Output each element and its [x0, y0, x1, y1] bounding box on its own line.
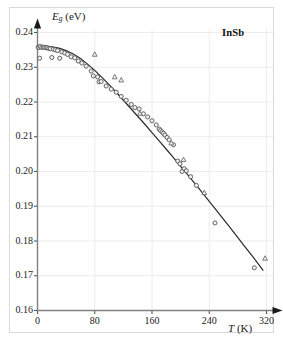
x-axis-label-unit: (K): [234, 322, 252, 334]
chart-canvas: [0, 0, 283, 340]
y-tick-label: 0.16: [3, 304, 33, 315]
axis-lines: [34, 19, 283, 315]
y-tick-label: 0.23: [3, 61, 33, 72]
y-tick-label: 0.19: [3, 200, 33, 211]
y-tick-label: 0.18: [3, 235, 33, 246]
y-tick-label: 0.24: [3, 26, 33, 37]
y-tick-label: 0.20: [3, 165, 33, 176]
y-axis-label-unit: (eV): [62, 10, 85, 22]
figure-container: Eg (eV) T (K) InSb 0.160.170.180.190.200…: [0, 0, 283, 340]
fit-curve: [38, 46, 263, 270]
y-axis-label: Eg (eV): [52, 10, 85, 23]
x-axis-label: T (K): [228, 322, 252, 334]
x-tick-label: 0: [23, 315, 53, 326]
y-tick-label: 0.17: [3, 269, 33, 280]
data-points-triangles: [92, 52, 267, 260]
y-axis-label-symbol: E: [52, 10, 59, 22]
material-annotation: InSb: [222, 27, 244, 38]
y-tick-label: 0.21: [3, 130, 33, 141]
data-points-circles: [36, 44, 256, 269]
x-tick-label: 320: [252, 315, 282, 326]
x-tick-label: 160: [137, 315, 167, 326]
gridlines: [38, 30, 274, 311]
x-tick-label: 80: [80, 315, 110, 326]
x-tick-label: 240: [194, 315, 224, 326]
y-tick-label: 0.22: [3, 96, 33, 107]
